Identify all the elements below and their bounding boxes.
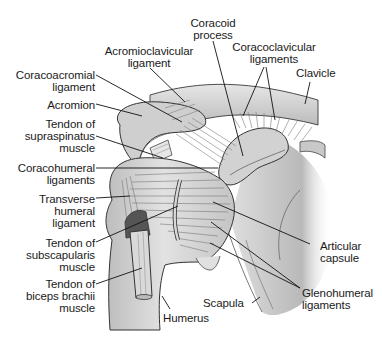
- capsule-lower-fringe: [196, 256, 220, 270]
- label-coracohumeral-ligaments: Coracohumeral ligaments: [0, 162, 95, 186]
- label-coracoid-process: Coracoid process: [186, 17, 240, 41]
- shoulder-diagram: Coracoid process Acromioclavicular ligam…: [0, 0, 383, 341]
- label-glenohumeral-ligaments: Glenohumeral ligaments: [302, 287, 373, 311]
- label-tendon-biceps: Tendon of biceps brachii muscle: [0, 278, 95, 314]
- label-clavicle: Clavicle: [296, 67, 335, 79]
- label-transverse-humeral-ligament: Transverse humeral ligament: [0, 193, 95, 229]
- label-articular-capsule: Articular capsule: [320, 240, 361, 264]
- label-coracoacromial-ligament: Coracoacromial ligament: [0, 69, 95, 93]
- label-humerus: Humerus: [158, 312, 214, 324]
- label-coracoclavicular-ligaments: Coracoclavicular ligaments: [226, 41, 322, 65]
- label-acromioclavicular-ligament: Acromioclavicular ligament: [99, 45, 199, 69]
- label-tendon-subscapularis: Tendon of subscapularis muscle: [0, 237, 95, 273]
- label-acromion: Acromion: [0, 99, 95, 111]
- label-scapula: Scapula: [203, 297, 244, 309]
- label-tendon-supraspinatus: Tendon of supraspinatus muscle: [0, 118, 95, 154]
